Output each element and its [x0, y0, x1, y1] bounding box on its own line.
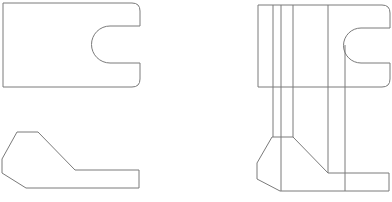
right-top-view-outline	[258, 5, 390, 87]
right-front-view-outline	[257, 137, 389, 191]
left-top-view-outline	[3, 3, 140, 87]
left-front-view-outline	[2, 132, 139, 188]
drawing-canvas	[0, 0, 392, 202]
